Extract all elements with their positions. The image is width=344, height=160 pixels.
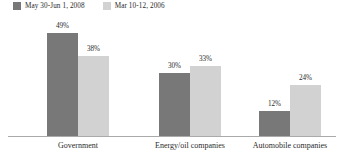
legend-item-series-0: May 30-Jun 1, 2008 xyxy=(13,2,85,10)
bar-value-label: 33% xyxy=(199,55,212,64)
bar-wrapper: 33% xyxy=(190,20,221,136)
category-label: Government xyxy=(28,140,128,151)
bar-wrapper: 24% xyxy=(290,20,321,136)
bar-value-label: 49% xyxy=(56,22,69,31)
bar-group-energy-oil-companies: 30% 33% xyxy=(140,20,240,136)
bar-value-label: 24% xyxy=(299,74,312,83)
plot-area: 49% 38% 30% 33% 12% 24% xyxy=(0,20,344,137)
bar-wrapper: 49% xyxy=(47,20,78,136)
legend-item-label: Mar 10-12, 2006 xyxy=(115,2,165,10)
bar-wrapper: 30% xyxy=(159,20,190,136)
legend-swatch-icon xyxy=(13,2,21,10)
bar-chart: May 30-Jun 1, 2008 Mar 10-12, 2006 49% 3… xyxy=(0,0,344,160)
bar-series-0 xyxy=(159,73,190,136)
bar-value-label: 38% xyxy=(87,45,100,54)
legend-item-label: May 30-Jun 1, 2008 xyxy=(25,2,85,10)
legend-item-series-1: Mar 10-12, 2006 xyxy=(103,2,165,10)
bar-series-1 xyxy=(78,56,109,136)
bar-series-0 xyxy=(259,111,290,136)
bar-value-label: 30% xyxy=(168,62,181,71)
bar-series-0 xyxy=(47,33,78,136)
x-axis-baseline xyxy=(8,136,336,137)
bar-group-government: 49% 38% xyxy=(28,20,128,136)
bar-series-1 xyxy=(190,66,221,136)
bar-wrapper: 38% xyxy=(78,20,109,136)
chart-legend: May 30-Jun 1, 2008 Mar 10-12, 2006 xyxy=(13,2,165,10)
bar-value-label: 12% xyxy=(268,100,281,109)
category-axis-labels: Government Energy/oil companies Automobi… xyxy=(0,140,344,156)
legend-swatch-icon xyxy=(103,2,111,10)
bar-series-1 xyxy=(290,85,321,136)
category-label: Energy/oil companies xyxy=(140,140,240,151)
category-label: Automobile companies xyxy=(240,140,340,151)
bar-group-automobile-companies: 12% 24% xyxy=(240,20,340,136)
bar-wrapper: 12% xyxy=(259,20,290,136)
